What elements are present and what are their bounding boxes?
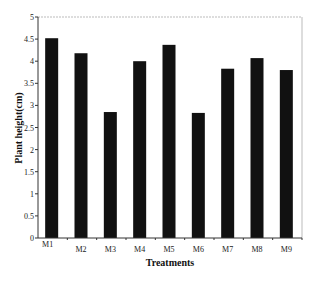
bar-m4 — [133, 61, 146, 238]
y-tick-label: 0.5 — [24, 212, 34, 221]
y-tick-label: 3.5 — [24, 79, 34, 88]
x-tick-label: M7 — [222, 245, 233, 254]
x-tick-label: M8 — [251, 245, 262, 254]
y-tick-label: 2 — [30, 146, 34, 155]
bar-m3 — [104, 112, 117, 238]
y-tick-label: 1 — [30, 190, 34, 199]
y-tick-label: 3 — [30, 101, 34, 110]
bar-m8 — [251, 58, 264, 238]
x-tick-label: M1 — [42, 240, 53, 249]
x-tick-label: M6 — [193, 245, 204, 254]
y-tick-label: 0 — [30, 234, 34, 243]
x-tick-label: M4 — [134, 245, 145, 254]
bar-m7 — [221, 69, 234, 238]
bar-m6 — [192, 113, 205, 238]
x-tick-label: M2 — [75, 245, 86, 254]
y-tick-label: 4.5 — [24, 35, 34, 44]
bar-chart: 00.511.522.533.544.55 M1M2M3M4M5M6M7M8M9… — [0, 0, 317, 281]
x-tick-label: M3 — [105, 245, 116, 254]
y-axis-title: Plant height(cm) — [13, 92, 25, 163]
bar-m1 — [45, 38, 58, 238]
bar-m2 — [75, 53, 88, 238]
y-tick-label: 2.5 — [24, 124, 34, 133]
bar-m5 — [163, 45, 176, 238]
bar-m9 — [280, 70, 293, 238]
y-axis: 00.511.522.533.544.55 — [24, 13, 38, 243]
y-tick-label: 4 — [30, 57, 34, 66]
x-axis-title: Treatments — [146, 257, 195, 268]
bars — [45, 38, 293, 238]
x-axis: M1M2M3M4M5M6M7M8M9 — [38, 238, 302, 254]
y-tick-label: 5 — [30, 13, 34, 22]
y-tick-label: 1.5 — [24, 168, 34, 177]
x-tick-label: M5 — [163, 245, 174, 254]
x-tick-label: M9 — [281, 245, 292, 254]
